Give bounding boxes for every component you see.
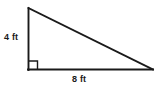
triangle-figure: 4 ft 8 ft	[0, 0, 159, 89]
right-angle-marker-icon	[29, 61, 38, 69]
hypotenuse-line	[29, 8, 154, 70]
horizontal-leg-label: 8 ft	[72, 75, 86, 84]
vertical-leg-label: 4 ft	[4, 33, 18, 42]
